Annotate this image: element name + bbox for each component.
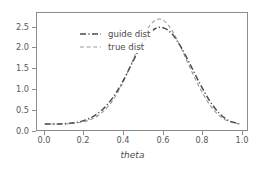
- legend-line-sample-icon: [80, 30, 101, 38]
- y-tick-label: 0.0: [16, 127, 29, 135]
- y-tick-label: 1.0: [16, 85, 29, 93]
- figure-canvas: 0.0 0.5 1.0 1.5 2.0 2.5 0.0 0.2 0.4 0.6 …: [0, 0, 265, 178]
- x-axis-label: theta: [0, 150, 265, 160]
- x-tick-label: 0.4: [116, 136, 129, 144]
- x-tick-label: 0.0: [37, 136, 50, 144]
- legend-label: true dist: [108, 43, 144, 52]
- plot-area: guide dist true dist: [36, 12, 248, 131]
- y-tick-label: 0.5: [16, 106, 29, 114]
- x-tick-label: 0.2: [76, 136, 89, 144]
- y-tick-mark: [32, 131, 36, 132]
- y-tick-label: 2.0: [16, 43, 29, 51]
- y-tick-label: 1.5: [16, 64, 29, 72]
- legend-item-guide-dist: guide dist: [80, 29, 150, 39]
- x-tick-label: 0.8: [195, 136, 208, 144]
- x-tick-label: 0.6: [156, 136, 169, 144]
- legend-label: guide dist: [108, 30, 150, 39]
- legend: guide dist true dist: [78, 28, 153, 53]
- x-tick-label: 1.0: [235, 136, 248, 144]
- y-tick-label: 2.5: [16, 23, 29, 31]
- legend-item-true-dist: true dist: [80, 42, 150, 52]
- legend-line-sample-icon: [80, 43, 101, 51]
